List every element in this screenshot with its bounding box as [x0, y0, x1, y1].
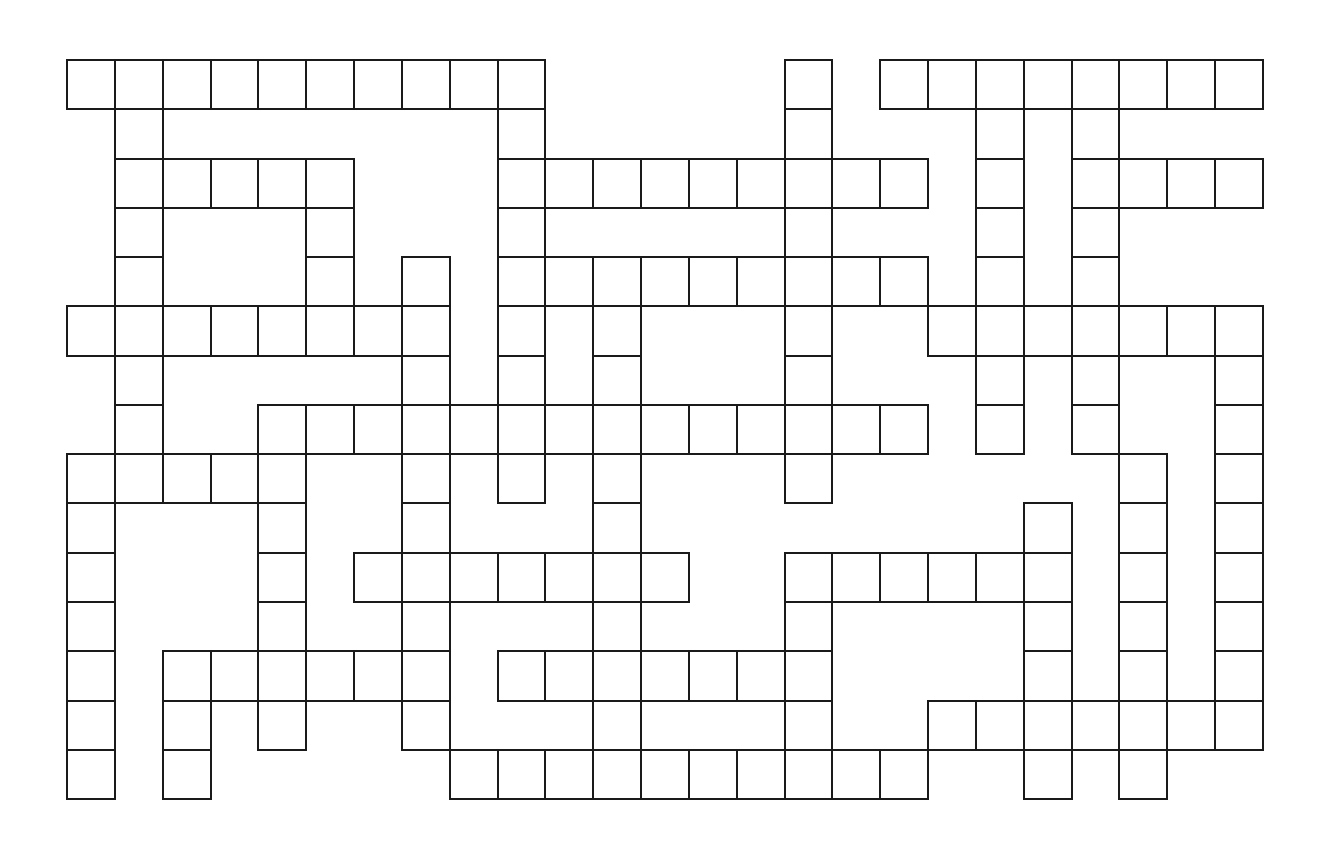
- cell-letter-input[interactable]: [881, 554, 928, 602]
- crossword-cell[interactable]: [114, 404, 165, 456]
- cell-letter-input[interactable]: [833, 751, 880, 799]
- cell-letter-input[interactable]: [451, 554, 498, 602]
- cell-letter-input[interactable]: [355, 307, 402, 356]
- cell-letter-input[interactable]: [1025, 751, 1072, 799]
- cell-letter-input[interactable]: [116, 307, 163, 356]
- cell-letter-input[interactable]: [1216, 455, 1263, 503]
- crossword-cell[interactable]: [831, 552, 882, 604]
- cell-letter-input[interactable]: [786, 702, 832, 750]
- crossword-cell[interactable]: [66, 305, 117, 358]
- crossword-cell[interactable]: [544, 552, 595, 604]
- cell-letter-input[interactable]: [642, 406, 689, 454]
- cell-letter-input[interactable]: [68, 652, 115, 701]
- crossword-cell[interactable]: [210, 650, 260, 703]
- cell-letter-input[interactable]: [738, 652, 785, 701]
- crossword-cell[interactable]: [784, 749, 834, 801]
- crossword-cell[interactable]: [927, 700, 978, 752]
- crossword-cell[interactable]: [784, 650, 834, 703]
- crossword-cell[interactable]: [544, 749, 595, 801]
- cell-letter-input[interactable]: [68, 307, 115, 356]
- crossword-cell[interactable]: [305, 650, 356, 703]
- cell-letter-input[interactable]: [1120, 702, 1167, 750]
- crossword-cell[interactable]: [497, 749, 547, 801]
- crossword-cell[interactable]: [879, 59, 930, 111]
- crossword-cell[interactable]: [1166, 158, 1217, 210]
- crossword-cell[interactable]: [640, 158, 691, 210]
- cell-letter-input[interactable]: [786, 455, 832, 503]
- crossword-cell[interactable]: [1023, 305, 1074, 358]
- crossword-cell[interactable]: [1071, 700, 1121, 752]
- cell-letter-input[interactable]: [690, 406, 737, 454]
- cell-letter-input[interactable]: [977, 357, 1024, 405]
- cell-letter-input[interactable]: [977, 160, 1024, 208]
- cell-letter-input[interactable]: [116, 61, 163, 109]
- crossword-cell[interactable]: [592, 502, 643, 555]
- crossword-cell[interactable]: [831, 404, 882, 456]
- crossword-cell[interactable]: [449, 59, 500, 111]
- cell-letter-input[interactable]: [1073, 61, 1119, 109]
- crossword-cell[interactable]: [784, 453, 834, 505]
- crossword-cell[interactable]: [257, 158, 308, 210]
- crossword-cell[interactable]: [1118, 158, 1169, 210]
- crossword-cell[interactable]: [831, 256, 882, 308]
- crossword-cell[interactable]: [831, 158, 882, 210]
- cell-letter-input[interactable]: [786, 406, 832, 454]
- cell-letter-input[interactable]: [499, 406, 545, 454]
- cell-letter-input[interactable]: [786, 160, 832, 208]
- cell-letter-input[interactable]: [546, 751, 593, 799]
- crossword-cell[interactable]: [1214, 355, 1265, 407]
- crossword-cell[interactable]: [353, 404, 404, 456]
- cell-letter-input[interactable]: [499, 160, 545, 208]
- crossword-cell[interactable]: [975, 552, 1026, 604]
- crossword-cell[interactable]: [784, 59, 834, 111]
- cell-letter-input[interactable]: [116, 258, 163, 306]
- cell-letter-input[interactable]: [68, 455, 115, 503]
- crossword-cell[interactable]: [257, 552, 308, 604]
- cell-letter-input[interactable]: [403, 406, 450, 454]
- crossword-cell[interactable]: [975, 108, 1026, 161]
- crossword-cell[interactable]: [401, 601, 452, 653]
- crossword-cell[interactable]: [592, 749, 643, 801]
- crossword-cell[interactable]: [497, 404, 547, 456]
- cell-letter-input[interactable]: [355, 61, 402, 109]
- cell-letter-input[interactable]: [690, 751, 737, 799]
- crossword-cell[interactable]: [1071, 59, 1121, 111]
- crossword-cell[interactable]: [975, 59, 1026, 111]
- cell-letter-input[interactable]: [1025, 307, 1072, 356]
- crossword-cell[interactable]: [784, 552, 834, 604]
- cell-letter-input[interactable]: [546, 160, 593, 208]
- crossword-cell[interactable]: [1214, 552, 1265, 604]
- cell-letter-input[interactable]: [355, 652, 402, 701]
- cell-letter-input[interactable]: [212, 307, 258, 356]
- cell-letter-input[interactable]: [738, 258, 785, 306]
- crossword-cell[interactable]: [784, 207, 834, 259]
- cell-letter-input[interactable]: [594, 603, 641, 651]
- cell-letter-input[interactable]: [786, 554, 832, 602]
- cell-letter-input[interactable]: [833, 160, 880, 208]
- cell-letter-input[interactable]: [259, 652, 306, 701]
- cell-letter-input[interactable]: [738, 751, 785, 799]
- cell-letter-input[interactable]: [1216, 702, 1263, 750]
- cell-letter-input[interactable]: [1073, 702, 1119, 750]
- cell-letter-input[interactable]: [1073, 307, 1119, 356]
- crossword-cell[interactable]: [162, 59, 213, 111]
- crossword-cell[interactable]: [879, 552, 930, 604]
- cell-letter-input[interactable]: [164, 702, 211, 750]
- crossword-cell[interactable]: [305, 158, 356, 210]
- cell-letter-input[interactable]: [786, 357, 832, 405]
- cell-letter-input[interactable]: [546, 406, 593, 454]
- crossword-cell[interactable]: [736, 404, 787, 456]
- crossword-cell[interactable]: [975, 158, 1026, 210]
- cell-letter-input[interactable]: [259, 307, 306, 356]
- cell-letter-input[interactable]: [1120, 504, 1167, 553]
- cell-letter-input[interactable]: [499, 110, 545, 159]
- crossword-cell[interactable]: [401, 552, 452, 604]
- cell-letter-input[interactable]: [1216, 61, 1263, 109]
- cell-letter-input[interactable]: [929, 554, 976, 602]
- cell-letter-input[interactable]: [1120, 160, 1167, 208]
- crossword-cell[interactable]: [1023, 749, 1074, 801]
- cell-letter-input[interactable]: [212, 61, 258, 109]
- crossword-cell[interactable]: [688, 404, 739, 456]
- cell-letter-input[interactable]: [212, 160, 258, 208]
- crossword-cell[interactable]: [257, 601, 308, 653]
